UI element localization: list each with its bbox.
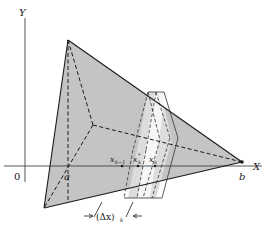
a-label: a	[64, 171, 70, 182]
x-k-sub: k	[154, 159, 157, 165]
origin-label: 0	[14, 171, 20, 182]
x-axis-label: X	[252, 161, 261, 172]
y-axis-label: Y	[19, 7, 27, 18]
x-k-minus-1-sub: k−1	[115, 159, 125, 165]
volume-slicing-diagram: Y X 0 a b x k−1 x * k x k (Δx) k	[0, 0, 267, 225]
delta-x-label: (Δx) k	[96, 212, 124, 223]
delta-x-sub: k	[120, 217, 124, 223]
delta-x-base: (Δx)	[96, 212, 115, 222]
x-k-star-sub: k	[138, 159, 141, 165]
b-label: b	[239, 171, 245, 182]
